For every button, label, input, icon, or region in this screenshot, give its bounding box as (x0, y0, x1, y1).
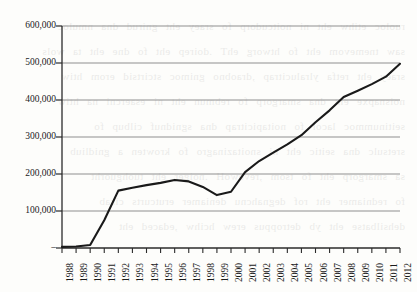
x-axis-tick-label: 1989 (80, 263, 90, 282)
x-axis-tick-label: 2002 (263, 263, 273, 282)
x-axis-tick-label: 1994 (151, 263, 161, 282)
x-axis-tick-label: 2003 (277, 263, 287, 282)
x-axis-tick-label: 1995 (165, 263, 175, 282)
x-axis-tick-label: 2010 (376, 263, 386, 282)
x-axis-tick-label: 1991 (108, 263, 118, 282)
x-axis-tick-label: 2009 (362, 263, 372, 282)
x-axis-tick-label: 1988 (66, 263, 76, 282)
x-axis-tick-label: 2000 (235, 263, 245, 282)
x-axis-tick-label: 1996 (179, 263, 189, 282)
x-axis-tick-label: 2001 (249, 263, 259, 282)
x-axis-tick-label: 1999 (221, 263, 231, 282)
x-axis-tick-label: 2012 (404, 263, 414, 282)
x-axis-tick-label: 1997 (193, 263, 203, 282)
chart-page: ruoloc etihw eht ni noitcudorp fo sraey … (0, 0, 417, 292)
x-axis-tick-label: 1990 (94, 263, 104, 282)
x-axis-tick-label: 2005 (305, 263, 315, 282)
x-axis-labels: 1988198919901991199219931994199519961997… (0, 0, 417, 292)
x-axis-tick-label: 2004 (291, 263, 301, 282)
x-axis-tick-label: 1998 (207, 263, 217, 282)
x-axis-tick-label: 2007 (334, 263, 344, 282)
x-axis-tick-label: 1993 (136, 263, 146, 282)
x-axis-tick-label: 1992 (122, 263, 132, 282)
x-axis-tick-label: 2008 (348, 263, 358, 282)
x-axis-tick-label: 2006 (320, 263, 330, 282)
x-axis-tick-label: 2011 (390, 263, 400, 282)
